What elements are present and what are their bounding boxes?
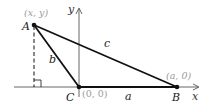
vertex-c-dot [77,85,82,90]
x-axis-label: x [192,90,199,103]
coord-c-label: (0, 0) [82,88,108,99]
side-b-label: b [49,53,56,66]
coord-a-label: (x, y) [24,7,48,18]
vertex-c-label: C [66,91,75,104]
coord-b-label: (a, 0) [166,70,191,81]
vertex-a-dot [32,23,37,28]
side-a-label: a [125,90,132,103]
vertex-a-label: A [21,20,30,33]
right-angle-icon [34,80,41,87]
vertex-b-dot [175,85,180,90]
side-c-label: c [104,37,110,50]
vertex-b-label: B [171,91,180,104]
triangle-diagram: y x A B C (x, y) (a, 0) (0, 0) a b c [0,0,220,107]
y-axis-label: y [67,3,75,16]
